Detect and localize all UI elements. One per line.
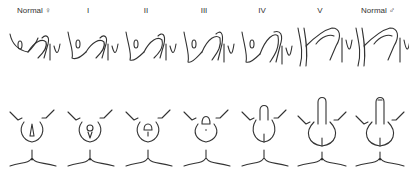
sagittal-normal-female bbox=[10, 34, 60, 60]
external-row bbox=[10, 98, 404, 167]
external-stage-2 bbox=[126, 110, 172, 166]
sagittal-stage-3 bbox=[184, 32, 234, 62]
external-normal-male bbox=[356, 98, 404, 167]
external-stage-1 bbox=[68, 110, 114, 166]
sagittal-stage-5 bbox=[298, 28, 352, 66]
external-stage-3 bbox=[184, 110, 230, 166]
sagittal-row bbox=[10, 28, 409, 66]
sagittal-normal-male bbox=[356, 28, 409, 66]
external-stage-5 bbox=[298, 98, 346, 167]
prader-stages-drawing bbox=[0, 0, 409, 172]
external-stage-4 bbox=[242, 106, 288, 167]
sagittal-stage-2 bbox=[126, 32, 176, 60]
external-normal-female bbox=[10, 110, 56, 166]
sagittal-stage-1 bbox=[68, 32, 118, 60]
sagittal-stage-4 bbox=[242, 32, 292, 64]
